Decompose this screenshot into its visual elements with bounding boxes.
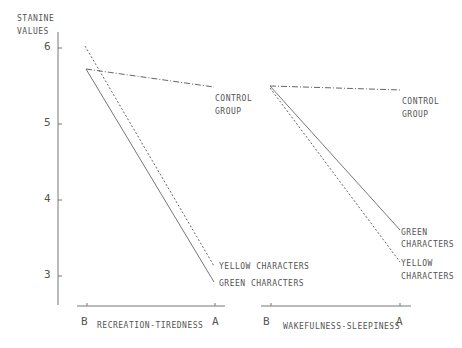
left-x-axis-label: RECREATION-TIREDNESS — [97, 321, 203, 330]
right-x-axis-label: WAKEFULNESS-SLEEPINESS — [283, 322, 400, 331]
left-b-label: B — [81, 315, 88, 328]
left-a-label: A — [212, 315, 219, 328]
y-axis-label-line2: VALUES — [17, 27, 49, 36]
y-tick-label-4: 4 — [44, 192, 51, 205]
left-yellow-line — [85, 46, 214, 266]
y-tick-label-3: 3 — [44, 268, 51, 281]
left-control-line — [86, 69, 214, 87]
right-green-label-2: CHARACTERS — [401, 240, 454, 249]
right-control-label-2: GROUP — [402, 110, 429, 119]
right-control-label-1: CONTROL — [402, 97, 439, 106]
right-green-line — [270, 86, 400, 230]
y-tick-label-5: 5 — [44, 116, 51, 129]
left-green-line — [86, 69, 214, 282]
right-b-label: B — [263, 315, 270, 328]
right-yellow-label-2: CHARACTERS — [401, 272, 454, 281]
right-green-label-1: GREEN — [401, 228, 428, 237]
right-control-line — [270, 86, 402, 90]
y-axis-label-line1: STANINE — [17, 14, 54, 23]
left-yellow-label: YELLOW CHARACTERS — [219, 262, 309, 271]
chart-canvas — [0, 0, 462, 348]
right-a-label: A — [396, 315, 403, 328]
left-green-label: GREEN CHARACTERS — [219, 279, 304, 288]
left-control-label-1: CONTROL — [215, 94, 252, 103]
right-yellow-line — [270, 88, 400, 262]
y-tick-label-6: 6 — [44, 40, 51, 53]
left-control-label-2: GROUP — [215, 107, 242, 116]
right-yellow-label-1: YELLOW — [401, 259, 433, 268]
